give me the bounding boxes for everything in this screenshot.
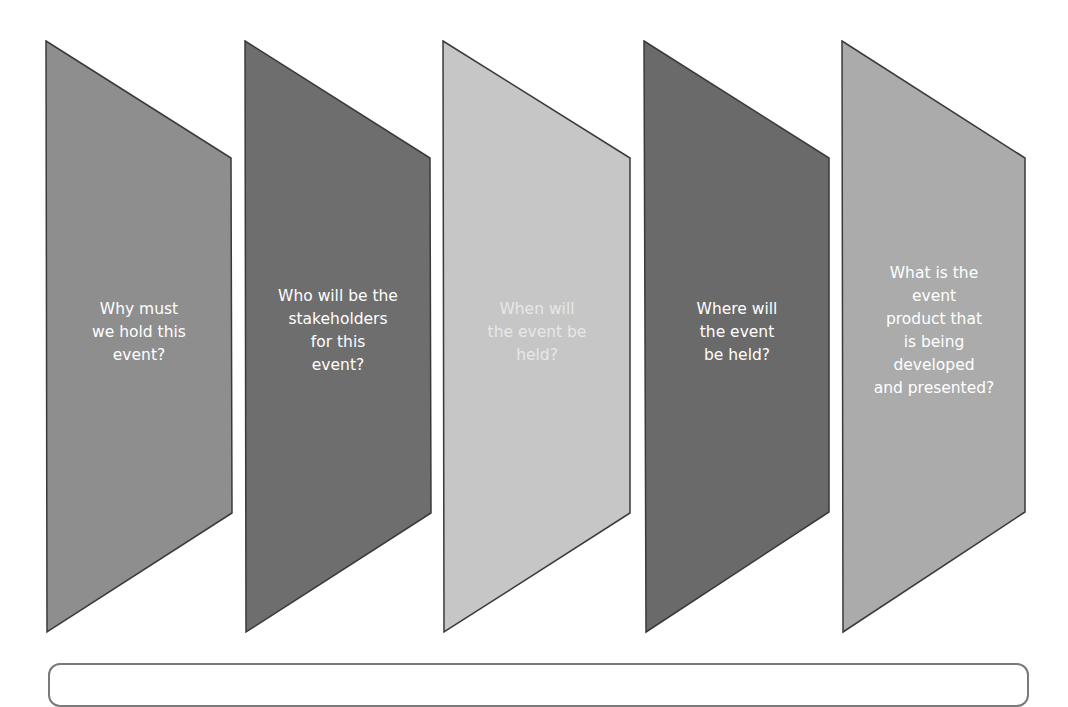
step-4-label: Where will the event be held? (645, 298, 829, 367)
step-3-label: When will the event be held? (444, 298, 630, 367)
summary-box (48, 663, 1029, 707)
step-1-label: Why must we hold this event? (47, 298, 231, 367)
step-2-label: Who will be the stakeholders for this ev… (246, 285, 430, 377)
step-5-label: What is the event product that is being … (843, 262, 1025, 400)
